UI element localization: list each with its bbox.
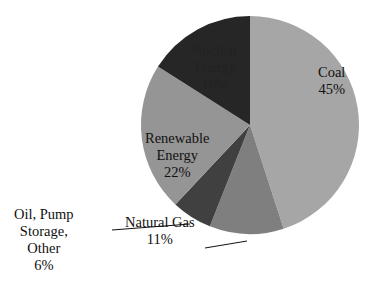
label-coal-value: 45% xyxy=(318,81,345,98)
label-nuclear-energy: Nuclear Energy 16% xyxy=(192,42,238,93)
label-coal-name: Coal xyxy=(318,64,345,81)
label-renewable-line1: Renewable xyxy=(145,130,209,147)
label-oil-pump-storage-other: Oil, Pump Storage, Other 6% xyxy=(14,206,74,274)
label-natural-gas: Natural Gas 11% xyxy=(125,214,195,248)
label-nuclear-line1: Nuclear xyxy=(192,42,238,59)
label-renewable-line2: Energy xyxy=(145,147,209,164)
label-coal: Coal 45% xyxy=(318,64,345,98)
label-renewable-value: 22% xyxy=(145,164,209,181)
leader-line-natural-gas xyxy=(205,241,247,248)
label-oil-line2: Storage, xyxy=(14,223,74,240)
label-nuclear-line2: Energy xyxy=(192,59,238,76)
label-oil-line1: Oil, Pump xyxy=(14,206,74,223)
label-oil-line3: Other xyxy=(14,240,74,257)
label-oil-value: 6% xyxy=(14,257,74,274)
label-renewable-energy: Renewable Energy 22% xyxy=(145,130,209,181)
label-nuclear-value: 16% xyxy=(192,76,238,93)
label-natural-gas-name: Natural Gas xyxy=(125,214,195,231)
label-natural-gas-value: 11% xyxy=(125,231,195,248)
